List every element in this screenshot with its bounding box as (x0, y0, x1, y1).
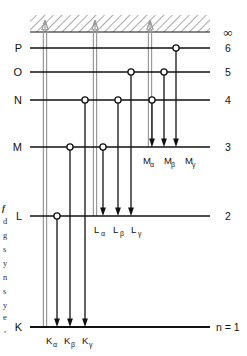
level-number-label-P: 6 (225, 42, 231, 54)
series-label-subscript: α (53, 341, 57, 348)
margin-text-fragment-8: e (3, 312, 7, 322)
series-label-subscript: α (150, 161, 154, 168)
continuum-hatch (30, 15, 210, 32)
level-number-label-N: 4 (225, 94, 231, 106)
series-label-base: K (64, 335, 71, 346)
series-label-subscript: γ (89, 341, 93, 349)
shell-label-N: N (14, 94, 22, 106)
series-label-subscript: γ (192, 161, 196, 169)
continuum-band (30, 15, 210, 32)
series-label-base: K (82, 335, 89, 346)
vacancy-circle-N-1 (115, 97, 121, 103)
series-label-subscript: β (171, 161, 175, 169)
vacancy-circle-O-0 (128, 69, 134, 75)
margin-text-fragment-9: , (4, 324, 6, 334)
margin-text-fragment-6: s (3, 286, 6, 296)
vacancy-circle-N-2 (149, 97, 155, 103)
continuum-infinity-label: ∞ (223, 25, 232, 40)
series-label-base: L (131, 224, 136, 235)
figure-background (0, 0, 247, 356)
vacancy-circle-L-0 (54, 213, 60, 219)
series-label-subscript: β (71, 341, 75, 349)
level-number-label-M: 3 (225, 141, 231, 153)
series-label-subscript: γ (138, 230, 142, 238)
vacancy-circle-M-0 (67, 144, 73, 150)
level-number-label-L: 2 (225, 210, 231, 222)
level-number-label-K: n = 1 (216, 321, 240, 333)
shell-label-O: O (13, 66, 22, 78)
series-label-base: L (113, 224, 118, 235)
margin-text-fragment-3: s (3, 244, 6, 254)
shell-label-L: L (16, 210, 22, 222)
vacancy-circle-N-0 (82, 97, 88, 103)
vacancy-circle-O-1 (161, 69, 167, 75)
shell-label-K: K (15, 321, 23, 333)
shell-label-P: P (15, 42, 22, 54)
shell-label-M: M (13, 141, 22, 153)
series-label-subscript: β (120, 230, 124, 238)
level-number-label-O: 5 (225, 66, 231, 78)
vacancy-circle-P-0 (173, 45, 179, 51)
vacancy-circle-M-1 (100, 144, 106, 150)
series-label-subscript: α (101, 230, 105, 237)
series-label-base: K (46, 335, 53, 346)
series-label-base: L (94, 224, 99, 235)
figure-root: PONMLK 65432n = 1 ∞ KαKβKγLαLβLγMαMβMγ f… (0, 0, 247, 356)
energy-level-diagram: PONMLK 65432n = 1 ∞ KαKβKγLαLβLγMαMβMγ f… (0, 0, 247, 356)
